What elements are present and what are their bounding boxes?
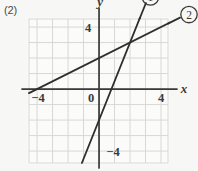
series-2-callout-text: 2 (186, 9, 192, 21)
x-axis-label: x (180, 81, 188, 96)
graph-figure: yx−4044−412 (0, 0, 198, 171)
data-line-2-callout-tail (168, 18, 180, 24)
series-2-callout: 2 (181, 6, 197, 22)
data-line-1-callout-tail (139, 3, 146, 19)
x-tick-label: 4 (158, 91, 165, 105)
x-tick-label: −4 (31, 91, 45, 105)
x-tick-label: 0 (88, 91, 94, 105)
series-1-callout-text: 1 (148, 0, 154, 3)
y-axis-label: y (95, 0, 103, 9)
y-tick-label: 4 (85, 21, 92, 35)
y-tick-label: −4 (106, 145, 120, 159)
